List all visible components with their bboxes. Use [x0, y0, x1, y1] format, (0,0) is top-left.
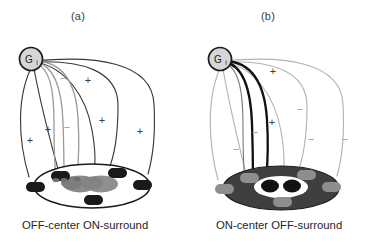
caption-panel-a: OFF-center ON-surround: [22, 219, 148, 231]
panel-a-sign-3: +: [45, 123, 51, 135]
panel-a-sign-1: −: [64, 121, 70, 133]
panel-b-group: G i + + − − − − −: [209, 48, 349, 211]
panel-b-sign-3: −: [308, 133, 314, 145]
figure-root: (a) (b): [0, 0, 368, 242]
panel-a-sign-4: +: [27, 134, 33, 146]
panel-b-sign-5: −: [252, 126, 258, 138]
panel-a-group: G i − − + + + + +: [20, 48, 155, 209]
panel-a-ganglion-cell: G i: [20, 48, 43, 71]
panel-a-sign-2: +: [85, 74, 91, 86]
panel-b-center-fibers-thin: [225, 63, 245, 181]
diagram-svg: G i − − + + + + +: [0, 0, 368, 242]
caption-panel-b: ON-center OFF-surround: [216, 219, 342, 231]
panel-a-center-fibers: [36, 61, 79, 177]
panel-b-center-fibers: [225, 61, 268, 181]
panel-b-sign-0: +: [270, 65, 276, 77]
panel-b-ganglion-label: G: [214, 54, 222, 65]
panel-a-sign-0: −: [60, 72, 66, 84]
panel-b-sign-4: −: [342, 133, 348, 145]
panel-b-ganglion-cell: G i: [209, 48, 232, 71]
panel-b-sign-1: +: [269, 116, 275, 128]
panel-a-sign-6: +: [137, 125, 143, 137]
panel-a-sign-5: +: [99, 114, 105, 126]
panel-b-sign-2: −: [297, 103, 303, 115]
panel-b-sign-6: −: [233, 143, 239, 155]
panel-a-ganglion-label: G: [25, 54, 33, 65]
